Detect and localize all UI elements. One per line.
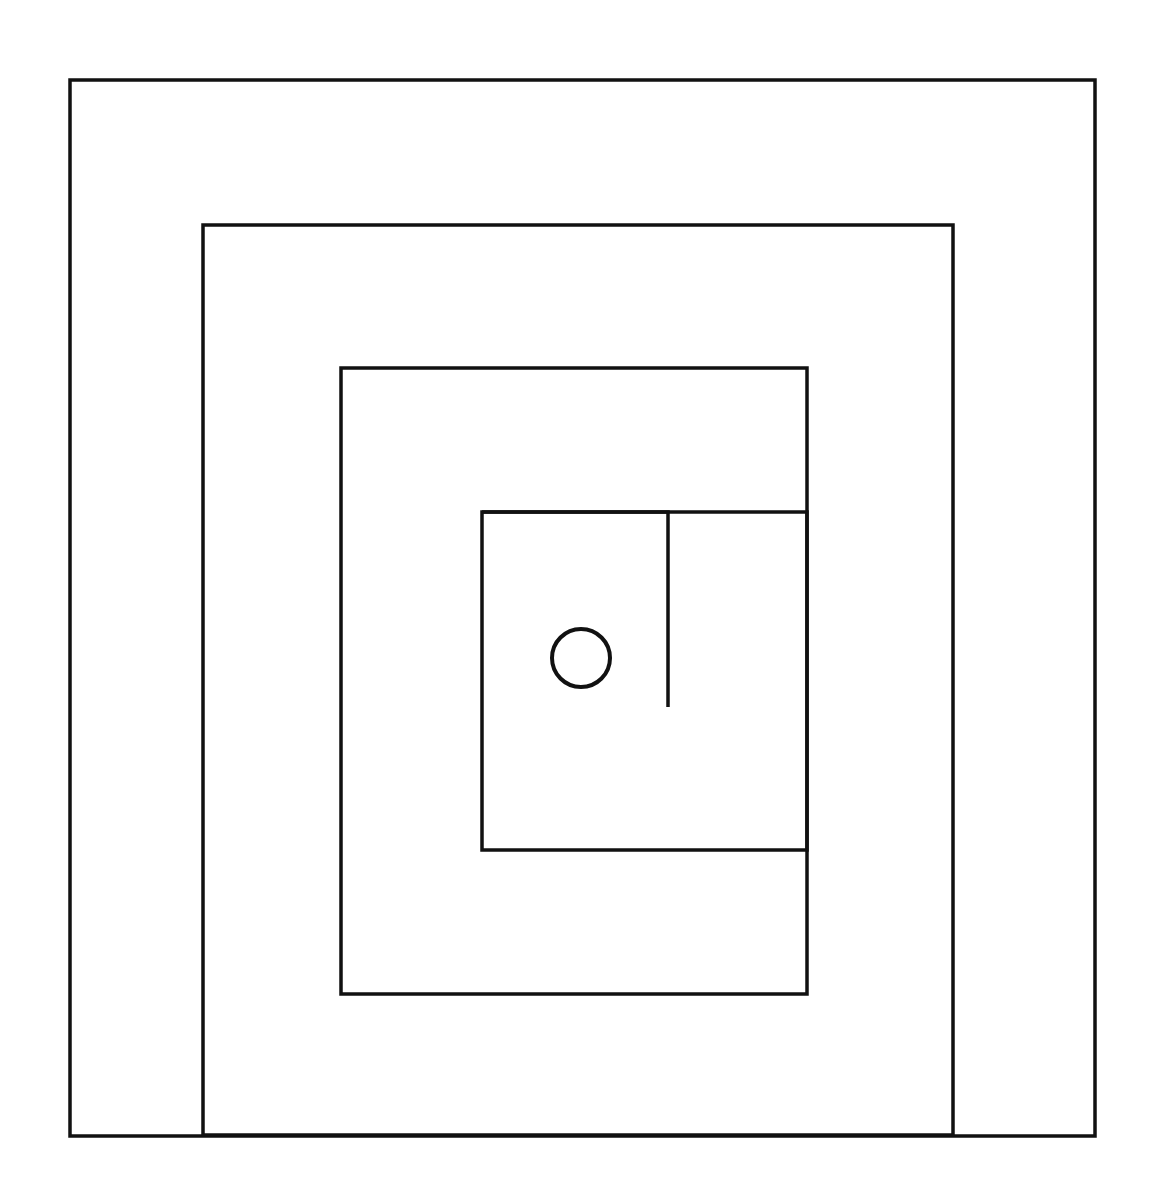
canvas-background bbox=[0, 0, 1155, 1194]
nested-rectangles-figure bbox=[0, 0, 1155, 1194]
drawing-canvas bbox=[0, 0, 1155, 1194]
